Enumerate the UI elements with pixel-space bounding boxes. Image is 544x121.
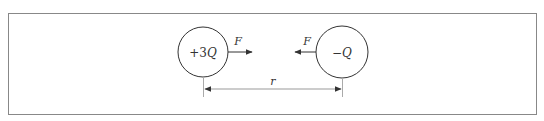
charge-left: +3Q bbox=[178, 27, 228, 77]
force-label-left: F bbox=[233, 35, 242, 48]
figure-frame bbox=[9, 14, 537, 115]
coulomb-diagram: +3Q −Q F F r bbox=[0, 0, 544, 121]
distance-label: r bbox=[270, 75, 276, 88]
force-label-right: F bbox=[302, 35, 311, 48]
charge-right: −Q bbox=[316, 26, 368, 78]
charge-right-label: −Q bbox=[332, 46, 352, 60]
charge-left-label: +3Q bbox=[189, 46, 217, 60]
